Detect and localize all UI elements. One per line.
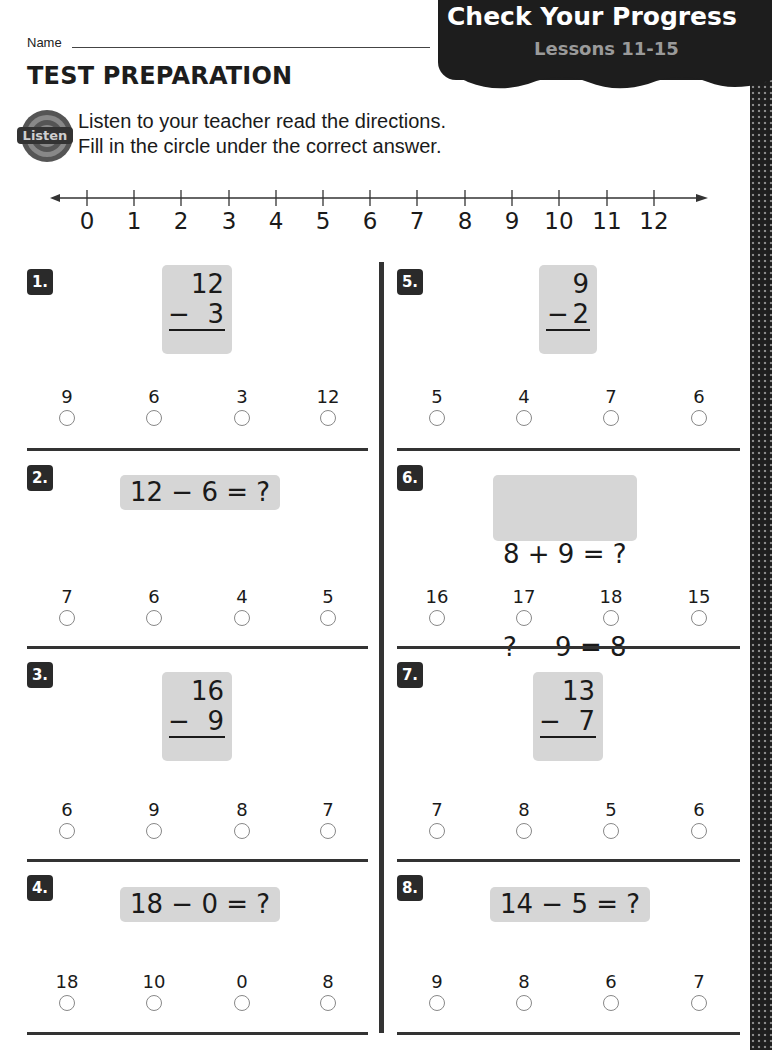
answer-bubble[interactable] [516, 610, 532, 626]
problem-number: 2. [27, 465, 53, 491]
minuend: 9 [572, 269, 589, 299]
answer-bubble[interactable] [320, 410, 336, 426]
choice: 7 [308, 800, 348, 839]
answer-choices: 9 8 6 7 [397, 972, 747, 1018]
answer-bubble[interactable] [59, 823, 75, 839]
section-separator [27, 646, 368, 649]
choice-label: 6 [591, 972, 631, 992]
answer-bubble[interactable] [59, 610, 75, 626]
problem-card: 16 −9 [162, 672, 232, 761]
equation-line-1: 8 + 9 = ? [503, 539, 627, 570]
name-label: Name [27, 35, 62, 50]
answer-bubble[interactable] [234, 823, 250, 839]
minus-sign: − [168, 299, 190, 329]
answer-bubble[interactable] [516, 410, 532, 426]
answer-bubble[interactable] [146, 410, 162, 426]
answer-bubble[interactable] [691, 610, 707, 626]
choice-label: 18 [47, 972, 87, 992]
problem-card: 12 − 6 = ? [120, 475, 280, 510]
answer-bubble[interactable] [234, 995, 250, 1011]
banner-wave-edge [448, 70, 772, 92]
tick-label: 3 [222, 208, 237, 234]
section-separator [27, 1032, 368, 1035]
subtrahend: 9 [207, 706, 224, 736]
answer-bubble[interactable] [603, 610, 619, 626]
tick-label: 12 [639, 208, 668, 234]
choice: 6 [134, 587, 174, 626]
number-line: 0 1 2 3 4 5 6 7 8 9 10 11 12 [50, 186, 710, 236]
answer-bubble[interactable] [234, 610, 250, 626]
answer-bubble[interactable] [691, 823, 707, 839]
tick-label: 0 [80, 208, 95, 234]
choice: 9 [134, 800, 174, 839]
answer-bubble[interactable] [691, 410, 707, 426]
answer-choices: 16 17 18 15 [397, 587, 747, 633]
answer-bubble[interactable] [320, 610, 336, 626]
choice: 6 [47, 800, 87, 839]
column-divider [379, 262, 384, 1033]
answer-bubble[interactable] [429, 823, 445, 839]
answer-bubble[interactable] [59, 995, 75, 1011]
minuend: 13 [562, 676, 595, 706]
section-title: TEST PREPARATION [27, 62, 292, 90]
choice: 7 [679, 972, 719, 1011]
choice-label: 10 [134, 972, 174, 992]
answer-rule [169, 329, 225, 331]
minus-sign: − [539, 706, 561, 736]
choice: 12 [308, 387, 348, 426]
answer-bubble[interactable] [603, 410, 619, 426]
answer-bubble[interactable] [59, 410, 75, 426]
problem-card: 12 −3 [162, 265, 232, 354]
choice-label: 8 [308, 972, 348, 992]
minus-sign: − [168, 706, 190, 736]
choice-label: 7 [47, 587, 87, 607]
answer-bubble[interactable] [516, 995, 532, 1011]
choice: 7 [47, 587, 87, 626]
name-field[interactable] [72, 47, 430, 48]
problem-number: 1. [27, 269, 53, 295]
answer-bubble[interactable] [516, 823, 532, 839]
problem-card: 13 −7 [533, 672, 603, 761]
problem-number: 6. [397, 465, 423, 491]
choice-label: 9 [47, 387, 87, 407]
answer-bubble[interactable] [691, 995, 707, 1011]
problem-number: 8. [397, 875, 423, 901]
choice: 5 [308, 587, 348, 626]
minus-sign: − [547, 299, 569, 329]
choice: 16 [417, 587, 457, 626]
answer-bubble[interactable] [603, 823, 619, 839]
tick-label: 4 [269, 208, 284, 234]
subtrahend-row: −9 [168, 706, 224, 736]
answer-bubble[interactable] [146, 995, 162, 1011]
subtrahend: 3 [207, 299, 224, 329]
directions-line-1: Listen to your teacher read the directio… [78, 109, 446, 134]
tick-label: 9 [505, 208, 520, 234]
answer-bubble[interactable] [146, 823, 162, 839]
answer-bubble[interactable] [146, 610, 162, 626]
choice: 7 [591, 387, 631, 426]
section-separator [397, 1032, 740, 1035]
svg-text:Listen: Listen [23, 128, 68, 143]
subtrahend-row: −7 [539, 706, 595, 736]
answer-choices: 5 4 7 6 [397, 387, 747, 433]
choice-label: 7 [417, 800, 457, 820]
section-separator [397, 859, 740, 862]
problem-4: 4. 18 − 0 = ? 18 10 0 8 [27, 875, 369, 1025]
answer-bubble[interactable] [320, 823, 336, 839]
answer-bubble[interactable] [429, 995, 445, 1011]
choice-label: 6 [134, 587, 174, 607]
choice-label: 6 [47, 800, 87, 820]
tick-label: 2 [174, 208, 189, 234]
tick-label: 1 [127, 208, 142, 234]
tick-label: 8 [458, 208, 473, 234]
answer-bubble[interactable] [234, 410, 250, 426]
answer-bubble[interactable] [320, 995, 336, 1011]
choice: 5 [591, 800, 631, 839]
tick-label: 11 [592, 208, 621, 234]
choice-label: 7 [679, 972, 719, 992]
answer-bubble[interactable] [603, 995, 619, 1011]
choice-label: 9 [417, 972, 457, 992]
answer-bubble[interactable] [429, 410, 445, 426]
answer-rule [169, 736, 225, 738]
answer-bubble[interactable] [429, 610, 445, 626]
